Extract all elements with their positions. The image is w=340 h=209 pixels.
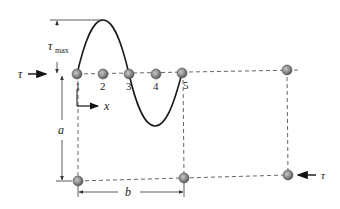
particle-1-number: 1	[75, 80, 81, 92]
right-dashed-line	[287, 70, 288, 175]
x-axis-label: x	[103, 99, 110, 113]
tau-right-label: τ	[321, 169, 326, 181]
particle-bottom-right	[283, 170, 293, 180]
particle-bottom-middle	[179, 173, 189, 183]
b-dimension	[78, 183, 184, 197]
a-dimension-label: a	[58, 123, 64, 137]
b-dimension-label: b	[125, 185, 131, 199]
top-dashed-line	[77, 70, 300, 74]
particle-bottom-left	[73, 176, 83, 186]
particle-top-right	[282, 65, 292, 75]
bottom-particle-row	[73, 170, 293, 186]
particle-5-number: 5	[183, 79, 189, 91]
particle-3	[124, 69, 134, 79]
x-axis-indicator	[77, 90, 98, 106]
tau-max-label-sub: max	[55, 46, 69, 55]
particle-5	[177, 68, 187, 78]
particle-3-number: 3	[126, 80, 132, 92]
top-particle-row	[72, 65, 292, 79]
shear-wave-diagram: τ max τ τ x a b 1 2 3 4 5	[0, 0, 340, 209]
dashed-frame	[77, 70, 300, 181]
particle-4-number: 4	[153, 80, 159, 92]
tau-max-label-main: τ	[48, 39, 53, 53]
particle-1	[72, 69, 82, 79]
particle-2-number: 2	[100, 80, 106, 92]
tau-left-label: τ	[18, 67, 23, 81]
particle-2	[98, 69, 108, 79]
particle-4	[151, 69, 161, 79]
